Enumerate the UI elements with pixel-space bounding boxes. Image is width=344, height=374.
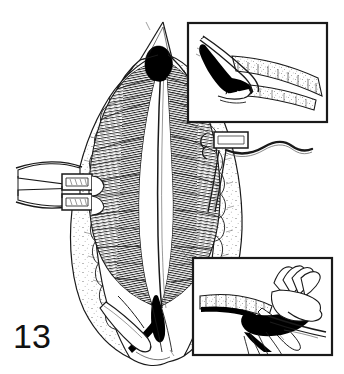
figure-container: 13 (0, 0, 344, 374)
figure-number-label: 13 (13, 316, 51, 356)
black-apex-region (145, 46, 173, 81)
inset-top-right-hitbox[interactable] (187, 22, 328, 123)
inset-bottom-right-hitbox[interactable] (192, 257, 333, 356)
